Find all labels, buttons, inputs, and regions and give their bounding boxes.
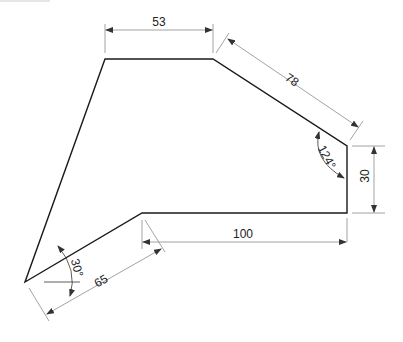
dimension-label-lower-left: 65 xyxy=(92,271,111,290)
angle-label-124: 124° xyxy=(315,143,339,172)
part-outline xyxy=(25,59,347,282)
dimension-label-bottom: 100 xyxy=(233,227,253,241)
technical-drawing: 53 78 124° 30 100 65 30° xyxy=(0,0,403,342)
dimension-lower-left-65 xyxy=(29,220,165,321)
dimension-label-top: 53 xyxy=(152,15,166,29)
angle-label-30: 30° xyxy=(68,257,86,278)
dimension-label-right: 30 xyxy=(358,169,372,183)
dimension-right-30 xyxy=(347,146,385,242)
